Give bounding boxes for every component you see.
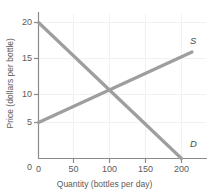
y-tick-label-20: 20 (12, 18, 32, 27)
y-axis-ticks (34, 23, 39, 123)
gridlines (38, 14, 206, 158)
x-tick-label-0: 0 (28, 165, 49, 174)
x-tick-label-100: 100 (99, 165, 120, 174)
y-tick-label-10: 10 (12, 90, 32, 99)
demand-curve-label: D (190, 139, 197, 149)
y-axis-title: Price (dollars per bottle) (6, 9, 15, 157)
y-tick-label-15: 15 (12, 54, 32, 63)
x-tick-label-150: 150 (135, 165, 156, 174)
supply-demand-chart: 20 15 10 5 0 0 50 100 150 200 S D Quanti… (0, 0, 209, 194)
supply-curve-label: S (190, 36, 196, 46)
x-tick-label-50: 50 (63, 165, 84, 174)
x-axis-title: Quantity (bottles per day) (0, 180, 209, 189)
y-tick-label-5: 5 (12, 118, 32, 127)
supply-curve (39, 52, 193, 123)
x-tick-label-200: 200 (171, 165, 192, 174)
x-axis-ticks (74, 159, 182, 164)
